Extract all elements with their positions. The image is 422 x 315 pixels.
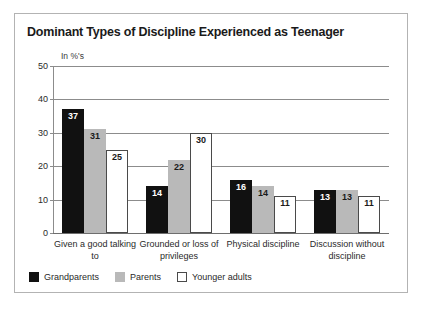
bar: 13 xyxy=(314,190,336,233)
bar-value-label: 37 xyxy=(63,112,83,121)
legend-label: Younger adults xyxy=(192,272,252,282)
y-tick-label: 20 xyxy=(38,161,48,171)
gridline xyxy=(53,233,389,234)
legend-swatch xyxy=(29,272,39,282)
bar-value-label: 13 xyxy=(337,193,357,202)
bar-value-label: 14 xyxy=(147,189,167,198)
bar: 30 xyxy=(190,133,212,233)
bar: 14 xyxy=(146,186,168,233)
y-tick-label: 10 xyxy=(38,195,48,205)
plot-area: 01020304050 373125142230161411131311 xyxy=(53,66,389,233)
y-tick-mark xyxy=(50,233,53,234)
bar: 16 xyxy=(230,180,252,233)
bar: 22 xyxy=(168,160,190,233)
legend-item[interactable]: Parents xyxy=(115,272,161,282)
y-tick-label: 50 xyxy=(38,61,48,71)
bar-value-label: 25 xyxy=(107,153,127,162)
bar: 14 xyxy=(252,186,274,233)
bar-value-label: 31 xyxy=(85,132,105,141)
y-tick-label: 30 xyxy=(38,128,48,138)
bar: 11 xyxy=(274,196,296,233)
x-category-label: Discussion without discipline xyxy=(305,238,389,262)
bars-layer: 373125142230161411131311 xyxy=(53,66,389,233)
bar-value-label: 16 xyxy=(231,183,251,192)
bar-value-label: 14 xyxy=(253,189,273,198)
legend-label: Parents xyxy=(130,272,161,282)
legend-swatch xyxy=(115,272,125,282)
x-category-label: Given a good talking to xyxy=(53,238,137,262)
chart-figure: Dominant Types of Discipline Experienced… xyxy=(14,13,408,293)
bar: 37 xyxy=(62,109,84,233)
legend: GrandparentsParentsYounger adults xyxy=(29,272,252,282)
y-tick-label: 0 xyxy=(43,228,48,238)
bar: 11 xyxy=(358,196,380,233)
legend-item[interactable]: Grandparents xyxy=(29,272,99,282)
y-tick-label: 40 xyxy=(38,94,48,104)
bar: 13 xyxy=(336,190,358,233)
bar-value-label: 11 xyxy=(275,199,295,208)
x-category-label: Grounded or loss of privileges xyxy=(137,238,221,262)
legend-swatch xyxy=(177,272,187,282)
bar-value-label: 13 xyxy=(315,193,335,202)
x-category-label: Physical discipline xyxy=(221,238,305,250)
bar-value-label: 11 xyxy=(359,199,379,208)
legend-item[interactable]: Younger adults xyxy=(177,272,252,282)
bar-value-label: 30 xyxy=(191,136,211,145)
legend-label: Grandparents xyxy=(44,272,99,282)
y-axis-unit-label: In %'s xyxy=(61,51,84,61)
page-title: Dominant Types of Discipline Experienced… xyxy=(27,25,344,39)
bar: 31 xyxy=(84,129,106,233)
bar: 25 xyxy=(106,150,128,234)
bar-value-label: 22 xyxy=(169,163,189,172)
